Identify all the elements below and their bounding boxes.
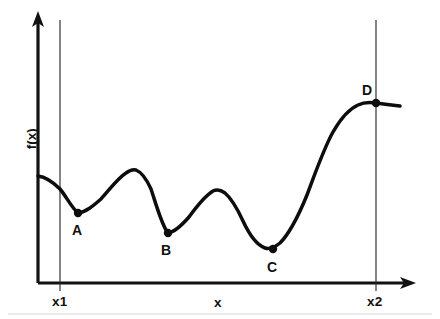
point-label-b: B bbox=[161, 243, 171, 257]
y-axis-label: f(x) bbox=[25, 116, 39, 162]
point-marker-d bbox=[372, 99, 380, 107]
plot-canvas bbox=[0, 0, 440, 319]
point-marker-b bbox=[164, 229, 172, 237]
x-axis-label: x bbox=[214, 296, 222, 310]
function-plot-figure: f(x) x x1 x2 A B C D bbox=[0, 0, 440, 319]
point-marker-a bbox=[74, 209, 82, 217]
x2-tick-label: x2 bbox=[367, 295, 382, 309]
point-label-c: C bbox=[267, 260, 277, 274]
point-marker-c bbox=[269, 245, 277, 253]
x1-tick-label: x1 bbox=[52, 295, 67, 309]
point-label-d: D bbox=[362, 83, 372, 97]
function-curve bbox=[38, 102, 400, 248]
point-label-a: A bbox=[72, 223, 82, 237]
